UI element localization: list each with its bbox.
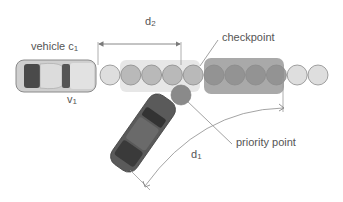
- velocity-sub: 1: [73, 97, 77, 106]
- vehicle-label-text: vehicle c: [31, 40, 74, 52]
- d2-sub: 2: [151, 19, 155, 28]
- path-circles: [100, 65, 328, 85]
- path-circle: [308, 65, 328, 85]
- velocity-v1-label: v1: [67, 93, 77, 105]
- diagram-canvas: [0, 0, 343, 202]
- d1-left-tick: [130, 170, 150, 190]
- path-circle: [142, 65, 162, 85]
- path-circle: [225, 65, 245, 85]
- path-circle: [246, 65, 266, 85]
- checkpoint-label: checkpoint: [222, 31, 275, 43]
- path-circle: [162, 65, 182, 85]
- path-circle: [100, 65, 120, 85]
- vehicle-c2: [107, 90, 180, 176]
- vehicle-c1: [16, 60, 96, 92]
- vehicle-label-sub: 1: [74, 44, 78, 53]
- diagram: vehicle c1 v1 d2 d1 checkpoint priority …: [0, 0, 343, 202]
- priority-point-label: priority point: [236, 136, 296, 148]
- d2-label: d2: [145, 15, 156, 27]
- path-circle: [204, 65, 224, 85]
- path-circle: [183, 65, 203, 85]
- vehicle-c1-label: vehicle c1: [31, 40, 78, 52]
- d1-label: d1: [191, 148, 202, 160]
- d1-sub: 1: [197, 152, 201, 161]
- path-circle: [121, 65, 141, 85]
- velocity-text: v: [67, 93, 73, 105]
- path-circle: [287, 65, 307, 85]
